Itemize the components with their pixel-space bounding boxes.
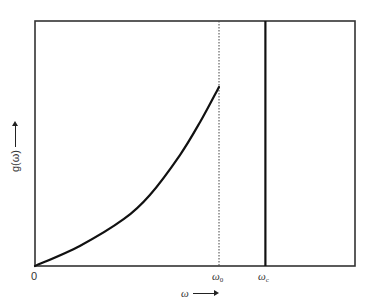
density-of-states-curve (35, 87, 219, 266)
y-axis-symbol: g(ω) (9, 150, 21, 172)
chart-canvas (0, 0, 372, 307)
omega-c-subscript: c (266, 276, 269, 284)
omega-c-tick-label: ωc (258, 270, 269, 284)
plot-frame (35, 21, 355, 266)
y-axis-label: g(ω) (8, 112, 22, 172)
omega-0-symbol: ω (212, 270, 220, 282)
origin-tick-label: 0 (31, 270, 37, 282)
omega-0-tick-label: ω0 (212, 270, 223, 284)
x-axis-label: ω (181, 287, 215, 299)
omega-c-symbol: ω (258, 270, 266, 282)
omega-0-subscript: 0 (220, 276, 224, 284)
x-axis-arrow-icon (193, 293, 215, 294)
x-axis-symbol: ω (181, 287, 189, 299)
y-axis-arrow-icon (15, 125, 16, 147)
